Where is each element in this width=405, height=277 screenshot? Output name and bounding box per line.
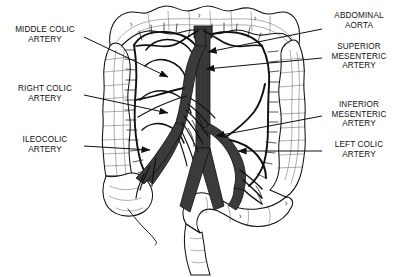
descending-colon [270,40,305,197]
rectum [185,224,211,275]
left-colic-artery [226,84,266,178]
colon-arterial-supply-figure: MIDDLE COLIC ARTERY RIGHT COLIC ARTERY I… [0,0,405,277]
leader-inferior-mesenteric [216,116,322,136]
label-ileocolic-artery: ILEOCOLIC ARTERY [6,135,84,154]
label-abdominal-aorta: ABDOMINAL AORTA [318,11,400,30]
ascending-colon [102,43,132,176]
label-right-colic-artery: RIGHT COLIC ARTERY [6,84,84,103]
label-superior-mesenteric-artery: SUPERIOR MESENTERIC ARTERY [318,42,400,71]
label-middle-colic-artery: MIDDLE COLIC ARTERY [6,25,84,44]
label-left-colic-artery: LEFT COLIC ARTERY [318,140,400,159]
label-inferior-mesenteric-artery: INFERIOR MESENTERIC ARTERY [318,100,400,129]
